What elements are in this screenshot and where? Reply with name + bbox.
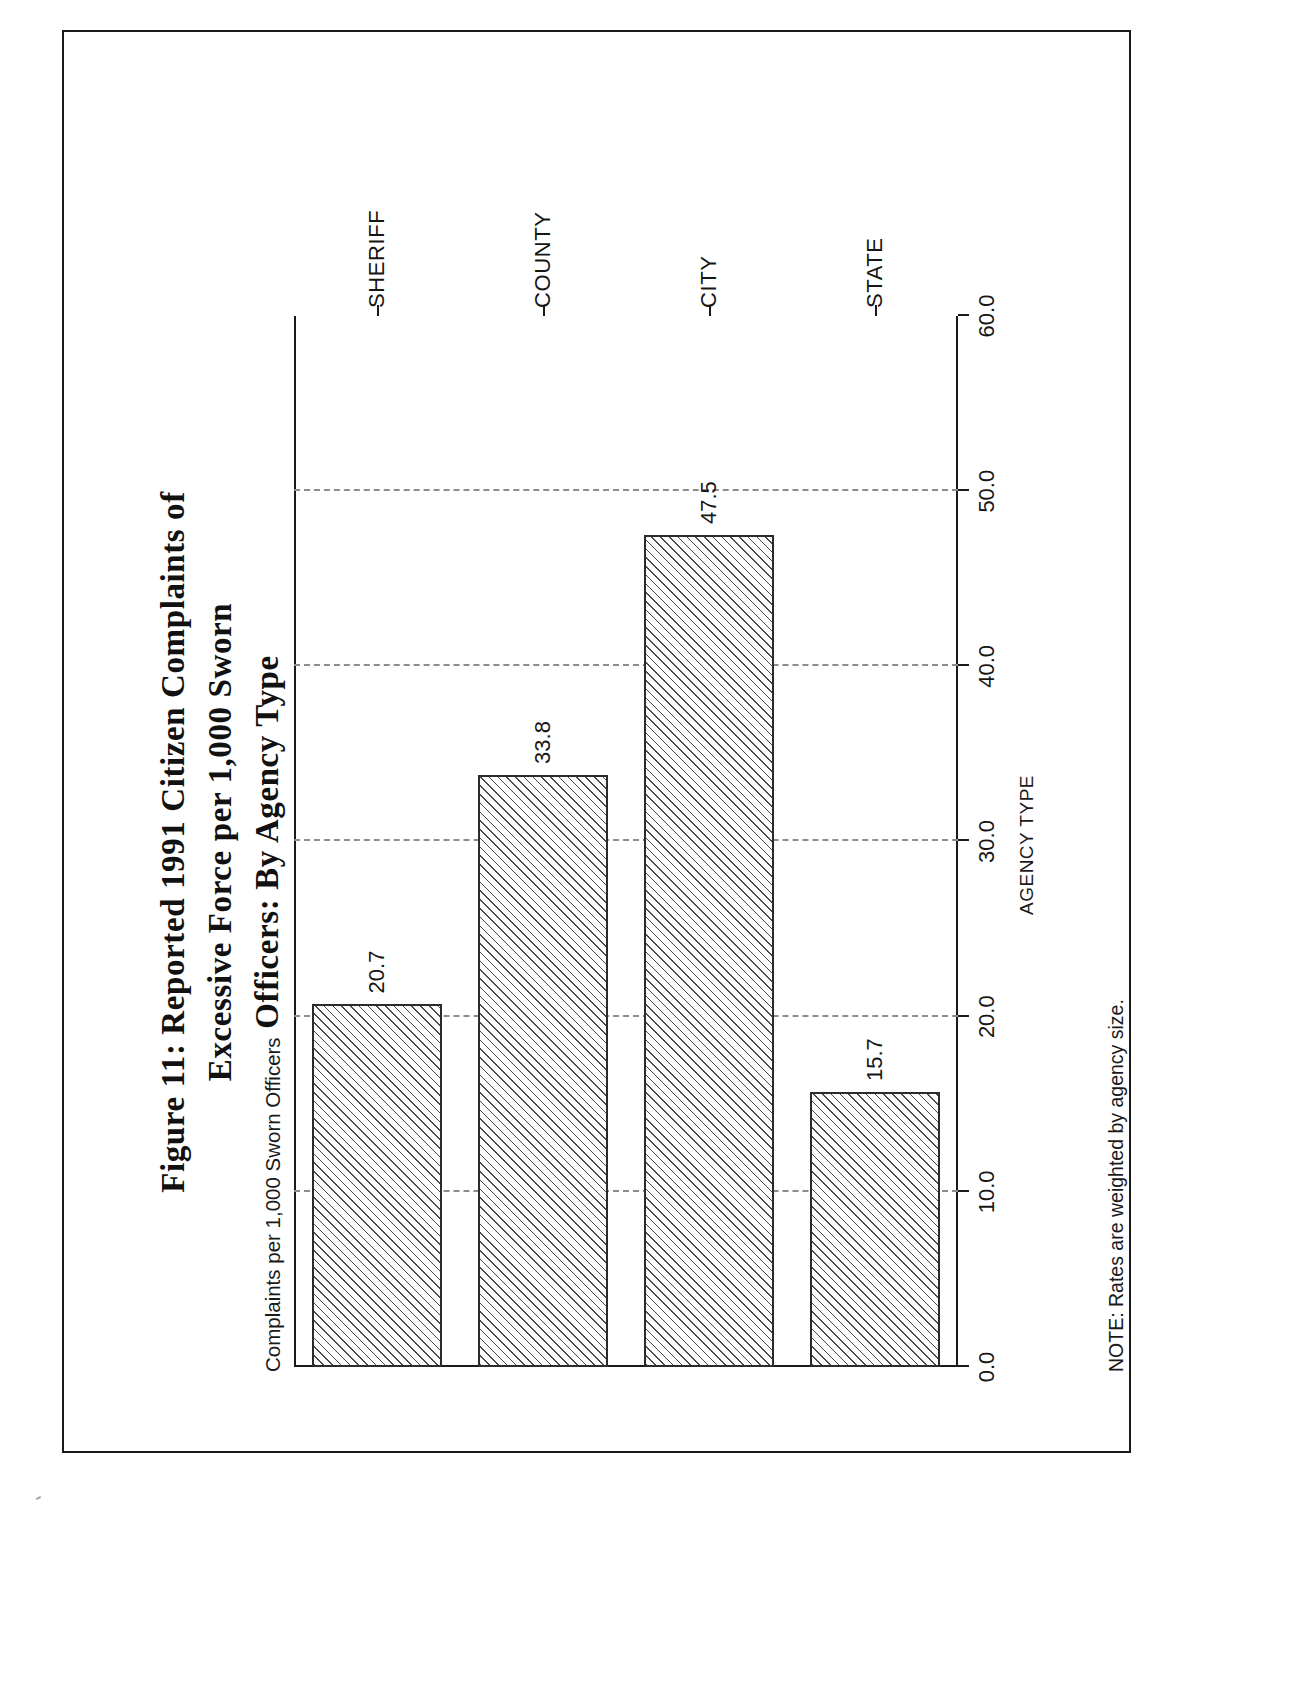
bar-county[interactable]: 33.8	[478, 774, 608, 1366]
value-tick	[958, 664, 969, 666]
bar-row: 15.7	[810, 316, 940, 1367]
value-tick-label: 40.0	[974, 644, 1000, 687]
category-label-sheriff: SHERIFF	[364, 209, 390, 307]
value-tick	[958, 314, 969, 316]
plot-area: 20.733.847.515.7	[294, 316, 958, 1367]
value-tick	[958, 489, 969, 491]
bar-state[interactable]: 15.7	[810, 1092, 940, 1367]
figure-stage: Figure 11: Reported 1991 Citizen Complai…	[132, 200, 1162, 1490]
scan-speck	[36, 1496, 41, 1500]
figure-title-line-1: Figure 11: Reported 1991 Citizen Complai…	[150, 312, 197, 1372]
value-tick-label: 30.0	[974, 820, 1000, 863]
value-tick	[958, 1014, 969, 1016]
category-label-county: COUNTY	[530, 211, 556, 308]
value-tick-label: 60.0	[974, 294, 1000, 337]
bar-value-label: 20.7	[364, 950, 390, 993]
bar-city[interactable]: 47.5	[644, 535, 774, 1367]
value-tick-label: 0.0	[974, 1351, 1000, 1382]
scanned-page: Figure 11: Reported 1991 Citizen Complai…	[0, 0, 1293, 1689]
category-label-state: STATE	[862, 237, 888, 308]
x-axis-title: AGENCY TYPE	[1016, 200, 1038, 1490]
bar-row: 47.5	[644, 316, 774, 1367]
value-axis: 0.010.020.030.040.050.060.0	[958, 316, 1018, 1367]
value-tick	[958, 1189, 969, 1191]
figure-note: NOTE: Rates are weighted by agency size.	[1105, 999, 1128, 1372]
value-tick-label: 10.0	[974, 1170, 1000, 1213]
bar-value-label: 33.8	[530, 721, 556, 764]
value-tick	[958, 1365, 969, 1367]
bar-value-label: 47.5	[696, 481, 722, 524]
category-label-city: CITY	[696, 255, 722, 308]
value-tick	[958, 839, 969, 841]
bar-value-label: 15.7	[862, 1038, 888, 1081]
value-tick-label: 50.0	[974, 469, 1000, 512]
y-axis-title: Complaints per 1,000 Sworn Officers	[261, 1037, 285, 1372]
bar-row: 20.7	[312, 316, 442, 1367]
value-tick-label: 20.0	[974, 995, 1000, 1038]
figure-title-line-2: Excessive Force per 1,000 Sworn	[196, 312, 243, 1372]
bar-sheriff[interactable]: 20.7	[312, 1004, 442, 1367]
bar-row: 33.8	[478, 316, 608, 1367]
